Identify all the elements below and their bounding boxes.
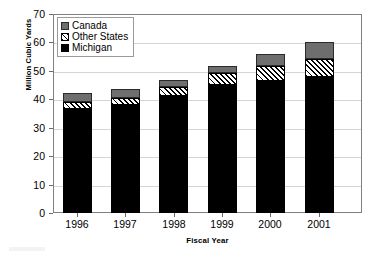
y-tick-mark: [49, 213, 53, 214]
y-tick-label: 70: [5, 9, 45, 20]
x-tick-mark: [77, 213, 78, 217]
bar-segment-michigan[interactable]: [305, 77, 334, 214]
x-tick-mark: [319, 213, 320, 217]
y-tick-label: 0: [5, 208, 45, 219]
bar-segment-other-states[interactable]: [159, 87, 188, 96]
stacked-bar-chart: Million Cubic Yards 70 60 50 40 30 20 10…: [0, 0, 376, 259]
x-tick-mark: [125, 213, 126, 217]
legend-swatch-michigan-icon: [61, 44, 69, 52]
bar-segment-michigan[interactable]: [111, 105, 140, 213]
stacked-bar[interactable]: [111, 89, 140, 213]
bar-segment-other-states[interactable]: [256, 66, 285, 81]
x-tick-mark: [270, 213, 271, 217]
legend-label-canada: Canada: [72, 21, 107, 31]
stacked-bar[interactable]: [159, 80, 188, 213]
bar-segment-canada[interactable]: [208, 66, 237, 73]
bar-segment-other-states[interactable]: [111, 98, 140, 105]
stacked-bar[interactable]: [208, 66, 237, 213]
bar-segment-michigan[interactable]: [63, 109, 92, 213]
bar-group-1999[interactable]: [208, 14, 237, 213]
y-tick-label: 10: [5, 180, 45, 191]
stacked-bar[interactable]: [63, 93, 92, 213]
bar-segment-canada[interactable]: [305, 42, 334, 59]
y-tick-label: 30: [5, 123, 45, 134]
bar-segment-michigan[interactable]: [159, 96, 188, 213]
x-tick-mark: [174, 213, 175, 217]
bar-segment-michigan[interactable]: [256, 81, 285, 213]
bar-segment-michigan[interactable]: [208, 85, 237, 214]
bar-segment-other-states[interactable]: [305, 59, 334, 76]
legend-swatch-other-states-icon: [61, 33, 69, 41]
bar-group-2001[interactable]: [305, 14, 334, 213]
y-tick-label: 60: [5, 37, 45, 48]
bar-segment-canada[interactable]: [159, 80, 188, 87]
legend-item-other-states[interactable]: Other States: [61, 31, 128, 42]
legend-item-canada[interactable]: Canada: [61, 20, 128, 31]
bar-segment-canada[interactable]: [256, 54, 285, 66]
legend-item-michigan[interactable]: Michigan: [61, 42, 128, 53]
y-tick-label: 40: [5, 94, 45, 105]
y-tick-label: 50: [5, 66, 45, 77]
scan-artifact: [9, 247, 45, 251]
legend-swatch-canada-icon: [61, 22, 69, 30]
x-axis-title: Fiscal Year: [53, 236, 362, 245]
y-tick-label: 20: [5, 151, 45, 162]
chart-legend: Canada Other States Michigan: [57, 17, 134, 57]
bar-segment-other-states[interactable]: [63, 102, 92, 109]
x-tick-mark: [222, 213, 223, 217]
legend-label-other-states: Other States: [72, 32, 128, 42]
bar-segment-other-states[interactable]: [208, 73, 237, 84]
x-tick-label-2001: 2001: [289, 219, 349, 230]
bar-segment-canada[interactable]: [111, 89, 140, 98]
stacked-bar[interactable]: [256, 54, 285, 213]
bar-group-2000[interactable]: [256, 14, 285, 213]
stacked-bar[interactable]: [305, 42, 334, 213]
bar-group-1998[interactable]: [159, 14, 188, 213]
legend-label-michigan: Michigan: [72, 43, 112, 53]
bar-segment-canada[interactable]: [63, 93, 92, 102]
